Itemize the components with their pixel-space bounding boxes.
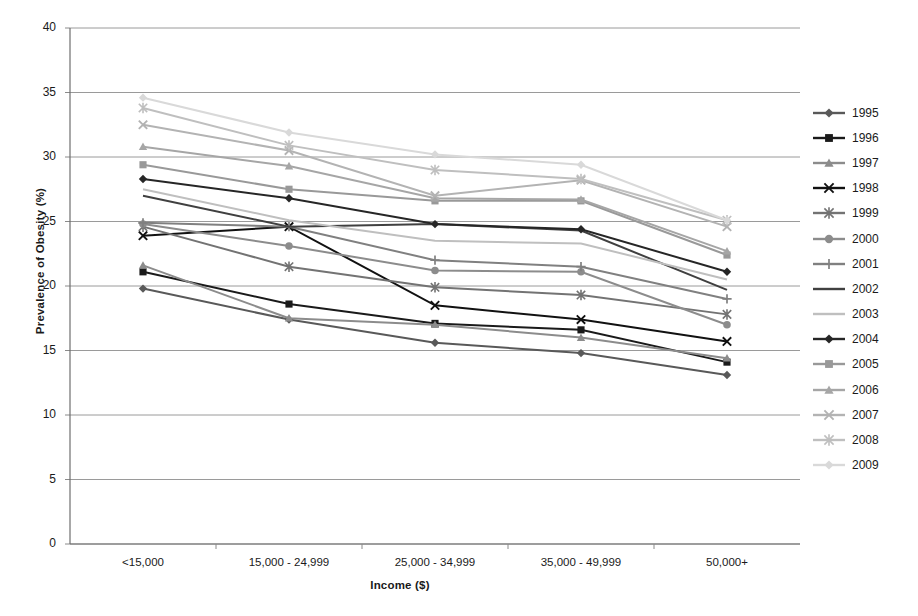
- legend-marker-square-icon: [812, 131, 846, 145]
- legend-marker-triangle-icon: [812, 383, 846, 397]
- data-point-square: [285, 300, 292, 307]
- series-2002: [143, 196, 727, 290]
- data-point-circle: [285, 242, 293, 250]
- legend-item-2000[interactable]: 2000: [812, 226, 912, 251]
- x-tick-label: 50,000+: [652, 556, 802, 568]
- legend-label: 2003: [852, 308, 879, 320]
- legend-marker-diamond-icon: [812, 332, 846, 346]
- legend-marker-line-icon: [812, 307, 846, 321]
- x-tick-label: 35,000 - 49,999: [506, 556, 656, 568]
- legend-item-2007[interactable]: 2007: [812, 402, 912, 427]
- data-point-plus: [722, 294, 731, 303]
- legend-label: 1997: [852, 157, 879, 169]
- legend-label: 2002: [852, 283, 879, 295]
- legend-label: 2005: [852, 358, 879, 370]
- legend-label: 1998: [852, 182, 879, 194]
- series-2009: [139, 93, 731, 224]
- data-point-diamond: [723, 371, 731, 379]
- y-tick-label: 40: [22, 20, 56, 34]
- x-tick-label: <15,000: [68, 556, 218, 568]
- data-point-square: [825, 361, 833, 369]
- legend-marker-star-icon: [812, 206, 846, 220]
- legend-label: 2000: [852, 233, 879, 245]
- legend-marker-cross-icon: [812, 181, 846, 195]
- y-tick-label: 10: [22, 407, 56, 421]
- legend-item-2009[interactable]: 2009: [812, 453, 912, 478]
- data-point-diamond: [139, 175, 147, 183]
- series-1995: [139, 284, 731, 379]
- legend-item-2004[interactable]: 2004: [812, 327, 912, 352]
- legend-item-1999[interactable]: 1999: [812, 201, 912, 226]
- legend-item-2003[interactable]: 2003: [812, 302, 912, 327]
- data-point-diamond: [824, 335, 833, 344]
- y-tick-label: 30: [22, 149, 56, 163]
- y-tick-label: 15: [22, 343, 56, 357]
- chart-legend: 1995199619971998199920002001200220032004…: [812, 100, 912, 478]
- data-point-diamond: [824, 108, 833, 117]
- legend-item-2005[interactable]: 2005: [812, 352, 912, 377]
- legend-marker-triangle-icon: [812, 156, 846, 170]
- legend-item-2006[interactable]: 2006: [812, 377, 912, 402]
- data-point-diamond: [431, 339, 439, 347]
- y-tick-label: 35: [22, 85, 56, 99]
- legend-marker-star-icon: [812, 433, 846, 447]
- y-tick-label: 0: [22, 536, 56, 550]
- legend-label: 1999: [852, 207, 879, 219]
- data-point-diamond: [723, 268, 731, 276]
- legend-marker-circle-icon: [812, 232, 846, 246]
- legend-marker-square-icon: [812, 357, 846, 371]
- legend-label: 2006: [852, 384, 879, 396]
- data-point-diamond: [285, 128, 293, 136]
- legend-marker-cross-icon: [812, 408, 846, 422]
- legend-label: 2009: [852, 459, 879, 471]
- data-point-circle: [825, 234, 833, 242]
- data-point-diamond: [139, 93, 147, 101]
- y-tick-label: 25: [22, 214, 56, 228]
- data-point-triangle: [139, 261, 147, 269]
- legend-marker-diamond-icon: [812, 458, 846, 472]
- series-2005: [139, 161, 730, 258]
- x-tick-label: 25,000 - 34,999: [360, 556, 510, 568]
- data-point-circle: [723, 321, 731, 329]
- legend-item-1997[interactable]: 1997: [812, 150, 912, 175]
- legend-marker-diamond-icon: [812, 106, 846, 120]
- legend-item-1995[interactable]: 1995: [812, 100, 912, 125]
- legend-item-2008[interactable]: 2008: [812, 427, 912, 452]
- series-2000: [139, 220, 731, 328]
- data-point-circle: [431, 267, 439, 275]
- data-point-diamond: [824, 461, 833, 470]
- plot-area: [0, 0, 918, 616]
- data-point-square: [285, 186, 292, 193]
- legend-marker-line-icon: [812, 282, 846, 296]
- legend-label: 1996: [852, 132, 879, 144]
- x-tick-label: 15,000 - 24,999: [214, 556, 364, 568]
- data-point-square: [139, 161, 146, 168]
- legend-label: 2008: [852, 434, 879, 446]
- data-point-plus: [824, 259, 834, 269]
- legend-label: 2001: [852, 258, 879, 270]
- data-point-diamond: [577, 161, 585, 169]
- data-point-diamond: [285, 194, 293, 202]
- y-tick-label: 5: [22, 472, 56, 486]
- legend-label: 1995: [852, 107, 879, 119]
- legend-item-1996[interactable]: 1996: [812, 125, 912, 150]
- legend-item-2002[interactable]: 2002: [812, 276, 912, 301]
- x-axis-title: Income ($): [0, 579, 800, 591]
- y-tick-label: 20: [22, 278, 56, 292]
- legend-item-2001[interactable]: 2001: [812, 251, 912, 276]
- data-point-square: [577, 326, 584, 333]
- data-point-square: [825, 134, 833, 142]
- data-point-plus: [430, 256, 439, 265]
- data-point-square: [139, 268, 146, 275]
- legend-label: 2004: [852, 333, 879, 345]
- legend-marker-plus-icon: [812, 257, 846, 271]
- legend-item-1998[interactable]: 1998: [812, 176, 912, 201]
- legend-label: 2007: [852, 409, 879, 421]
- obesity-income-line-chart: Prevalence of Obesity (%) Income ($) 051…: [0, 0, 918, 616]
